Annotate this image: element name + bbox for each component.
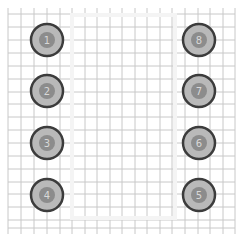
pad-number-label: 4 (44, 190, 50, 201)
pad-3[interactable]: 3 (31, 127, 63, 159)
pad-number-label: 7 (196, 86, 202, 97)
pad-number-label: 6 (196, 138, 202, 149)
footprint-drawing: 12345678 (0, 0, 241, 242)
pad-number-label: 5 (196, 190, 202, 201)
pad-number-label: 1 (44, 35, 50, 46)
pad-6[interactable]: 6 (183, 127, 215, 159)
pad-4[interactable]: 4 (31, 179, 63, 211)
pad-2[interactable]: 2 (31, 75, 63, 107)
footprint-canvas: 12345678 (0, 0, 241, 242)
pad-5[interactable]: 5 (183, 179, 215, 211)
pad-1[interactable]: 1 (31, 24, 63, 56)
pad-8[interactable]: 8 (183, 24, 215, 56)
pad-number-label: 2 (44, 86, 50, 97)
pad-number-label: 8 (196, 35, 202, 46)
pad-number-label: 3 (44, 138, 50, 149)
pad-7[interactable]: 7 (183, 75, 215, 107)
